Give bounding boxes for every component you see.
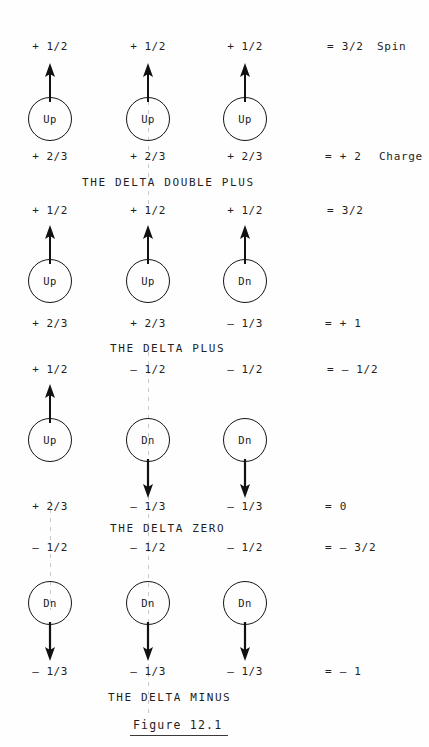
quark-flavor-label: Dn [43,597,56,609]
quark-flavor-label: Dn [238,434,251,446]
quark-circle: Dn [28,581,72,625]
group-name-label: THE DELTA PLUS [110,342,225,355]
charge-value: + 2/3 [2,500,98,513]
charge-value: + 2/3 [100,317,196,330]
quark-flavor-label: Dn [238,597,251,609]
spin-value: – 1/2 [2,541,98,554]
spin-total: = 3/2 [327,204,364,217]
quark-circle: Up [126,259,170,303]
spin-value: – 1/2 [100,541,196,554]
charge-value: – 1/3 [197,317,293,330]
charge-value: – 1/3 [197,665,293,678]
charge-total: = 0 [325,500,347,513]
charge-value: + 2/3 [100,150,196,163]
spin-value: + 1/2 [197,204,293,217]
spin-value: + 1/2 [2,204,98,217]
quark-circle: Dn [126,418,170,462]
charge-total: = – 1 [325,665,362,678]
quark-circle: Up [28,418,72,462]
spin-value: + 1/2 [197,40,293,53]
quark-flavor-label: Dn [141,434,154,446]
quark-circle: Up [28,97,72,141]
spin-column-header: Spin [377,40,406,53]
charge-value: – 1/3 [2,665,98,678]
spin-value: + 1/2 [2,363,98,376]
charge-value: – 1/3 [100,665,196,678]
charge-total: = + 1 [325,317,362,330]
spin-value: – 1/2 [197,363,293,376]
spin-total: = – 1/2 [327,363,378,376]
spin-value: + 1/2 [100,40,196,53]
quark-circle: Up [223,97,267,141]
quark-circle: Up [126,97,170,141]
quark-circle: Dn [223,259,267,303]
quark-circle: Dn [223,581,267,625]
quark-circle: Dn [126,581,170,625]
quark-flavor-label: Up [238,113,251,125]
charge-value: + 2/3 [2,150,98,163]
spin-value: – 1/2 [100,363,196,376]
group-name-label: THE DELTA MINUS [108,691,231,704]
spin-value: + 1/2 [2,40,98,53]
quark-flavor-label: Up [141,113,154,125]
charge-value: – 1/3 [100,500,196,513]
charge-total: = + 2 [325,150,362,163]
spin-total: = 3/2 [327,40,364,53]
charge-column-header: Charge [379,150,423,163]
quark-flavor-label: Up [141,275,154,287]
group-name-label: THE DELTA DOUBLE PLUS [82,176,255,189]
quark-flavor-label: Dn [141,597,154,609]
charge-value: + 2/3 [197,150,293,163]
quark-flavor-label: Up [43,275,56,287]
spin-value: + 1/2 [100,204,196,217]
figure-caption-underline [130,735,228,736]
group-name-label: THE DELTA ZERO [110,522,225,535]
charge-value: – 1/3 [197,500,293,513]
quark-flavor-label: Dn [238,275,251,287]
quark-flavor-label: Up [43,113,56,125]
quark-flavor-label: Up [43,434,56,446]
charge-value: + 2/3 [2,317,98,330]
quark-circle: Dn [223,418,267,462]
spin-total: = – 3/2 [325,541,376,554]
quark-circle: Up [28,259,72,303]
figure-caption: Figure 12.1 [133,718,222,732]
spin-value: – 1/2 [197,541,293,554]
